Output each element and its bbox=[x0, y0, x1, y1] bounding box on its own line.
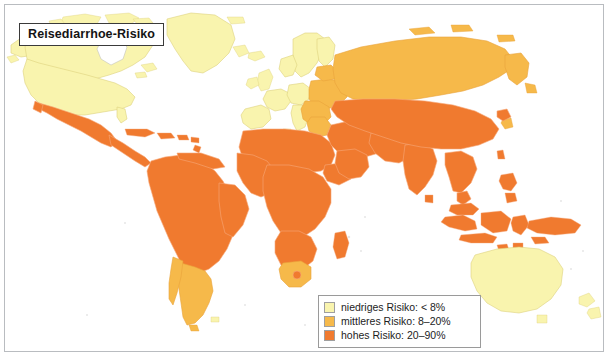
legend-label-medium-risk: mittleres Risiko: 8–20% bbox=[341, 316, 451, 327]
map-title-box: Reisediarrhoe-Risiko bbox=[19, 23, 164, 46]
legend-label-high-risk: hohes Risiko: 20–90% bbox=[341, 330, 445, 341]
page-title: Reisediarrhoe-Risiko bbox=[28, 27, 155, 41]
figure-root: .low { fill: #f9f4ae; stroke: #ddd27e; s… bbox=[0, 0, 608, 362]
legend-swatch-medium-risk bbox=[324, 316, 335, 327]
world-map-surface: .low { fill: #f9f4ae; stroke: #ddd27e; s… bbox=[5, 5, 603, 351]
legend-swatch-low-risk bbox=[324, 302, 335, 313]
legend-label-low-risk: niedriges Risiko: < 8% bbox=[341, 302, 445, 313]
legend-swatch-high-risk bbox=[324, 330, 335, 341]
legend-item-low: niedriges Risiko: < 8% bbox=[324, 301, 474, 314]
legend-item-medium: mittleres Risiko: 8–20% bbox=[324, 315, 474, 328]
world-map-svg: .low { fill: #f9f4ae; stroke: #ddd27e; s… bbox=[5, 5, 603, 351]
legend: niedriges Risiko: < 8% mittleres Risiko:… bbox=[318, 295, 481, 348]
legend-item-high: hohes Risiko: 20–90% bbox=[324, 329, 474, 342]
